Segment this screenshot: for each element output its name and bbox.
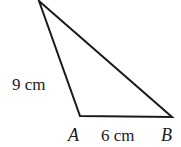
triangle: [39, 1, 172, 117]
vertex-label-b: B: [161, 125, 172, 145]
triangle-diagram: 9 cm A 6 cm B: [0, 0, 181, 147]
side-label-6cm: 6 cm: [101, 126, 135, 145]
side-label-9cm: 9 cm: [12, 75, 46, 94]
vertex-label-a: A: [67, 125, 80, 145]
